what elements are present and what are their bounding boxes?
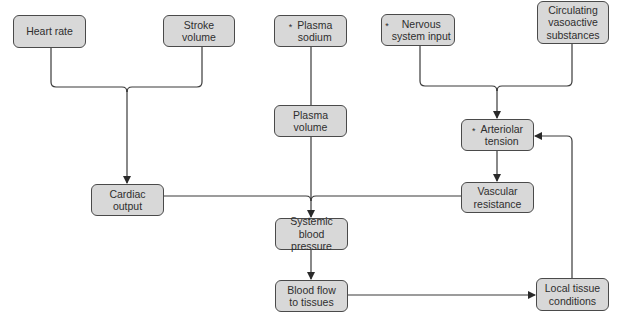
- node-arteriolar-tension: * Arteriolar tension: [461, 119, 534, 151]
- node-stroke-volume: Stroke volume: [163, 15, 235, 47]
- edge-circulating: [497, 44, 572, 91]
- edge-heart-rate: [51, 48, 127, 92]
- node-plasma-sodium: * Plasma sodium: [274, 15, 347, 47]
- node-label: Arteriolar tension: [480, 123, 523, 148]
- node-label: Nervous system input: [392, 18, 451, 43]
- edge-feedback: [535, 136, 572, 278]
- node-systemic-blood-pressure: Systemic blood pressure: [275, 218, 348, 250]
- edge-nervous: [420, 46, 497, 91]
- node-label: Circulating vasoactive substances: [546, 4, 599, 42]
- node-nervous-system-input: * Nervous system input: [381, 14, 455, 46]
- node-blood-flow-to-tissues: Blood flow to tissues: [275, 280, 348, 312]
- star-marker-icon: *: [385, 20, 389, 33]
- connector-lines: [0, 0, 619, 322]
- edge-stroke-volume: [127, 47, 202, 92]
- node-label: Plasma sodium: [297, 19, 332, 44]
- edge-cardiac-output: [164, 196, 311, 201]
- node-label: Stroke volume: [182, 19, 216, 44]
- node-label: Vascular resistance: [474, 185, 522, 210]
- edge-vascular-resistance: [311, 196, 461, 201]
- node-label: Cardiac output: [109, 188, 145, 213]
- node-plasma-volume: Plasma volume: [274, 105, 347, 137]
- star-marker-icon: *: [472, 125, 476, 138]
- node-cardiac-output: Cardiac output: [91, 184, 164, 216]
- node-label: Systemic blood pressure: [278, 215, 345, 253]
- node-heart-rate: Heart rate: [13, 15, 86, 48]
- node-circulating-vasoactive: Circulating vasoactive substances: [537, 1, 609, 44]
- node-vascular-resistance: Vascular resistance: [461, 182, 534, 213]
- node-label: Plasma volume: [293, 109, 328, 134]
- node-local-tissue-conditions: Local tissue conditions: [536, 278, 609, 311]
- node-label: Heart rate: [26, 25, 73, 38]
- node-label: Blood flow to tissues: [287, 284, 335, 309]
- star-marker-icon: *: [289, 21, 293, 34]
- node-label: Local tissue conditions: [545, 282, 600, 307]
